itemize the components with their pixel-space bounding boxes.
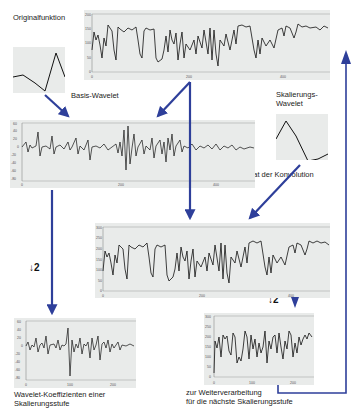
feedback-line: [278, 62, 346, 393]
flow-arrows: [0, 0, 360, 415]
arrow-original-to-detail: [158, 82, 190, 116]
arrow-approx-to-downsampled: [291, 297, 299, 308]
arrow-scaling-to-approx: [250, 165, 300, 218]
arrow-basis-to-detail: [45, 95, 68, 116]
feedback-arrowhead: [341, 50, 351, 64]
